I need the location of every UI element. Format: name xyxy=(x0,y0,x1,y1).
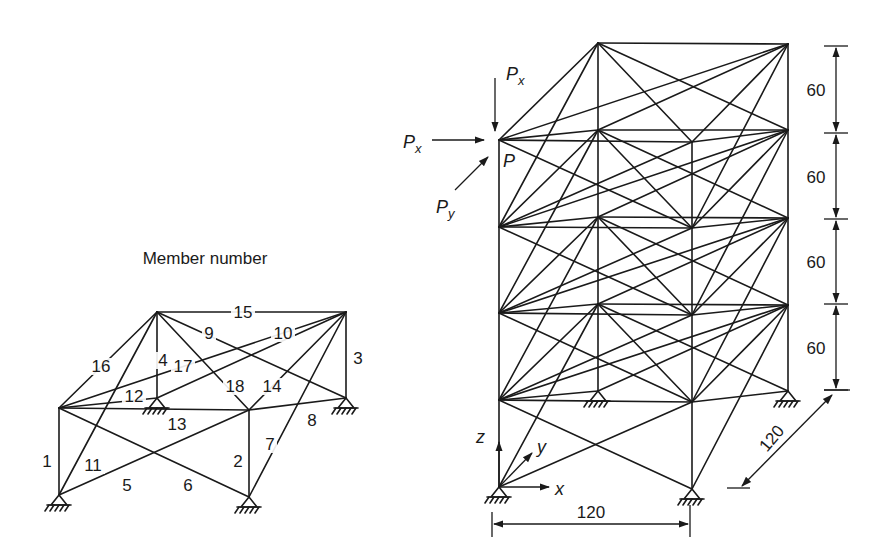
tower-member xyxy=(499,227,692,228)
member-6 xyxy=(59,408,249,497)
member-label-11: 11 xyxy=(84,456,102,475)
load-arrows xyxy=(432,78,495,190)
tower-member xyxy=(499,313,692,402)
member-label-6: 6 xyxy=(183,476,192,495)
tower-member xyxy=(692,130,788,228)
coordinate-axes: z y x xyxy=(475,427,565,499)
member-diagram-title: Member number xyxy=(143,249,268,268)
member-label-18: 18 xyxy=(226,377,245,396)
py-label: Py xyxy=(436,197,456,221)
tower-member xyxy=(499,140,692,142)
tower-members xyxy=(499,43,788,489)
member-number-labels: 123456789101112131415161718 xyxy=(40,303,365,495)
height-label-4: 60 xyxy=(807,339,826,358)
px-horizontal-label: Px xyxy=(403,132,422,156)
tower-member xyxy=(499,313,692,315)
member-8 xyxy=(249,398,346,410)
member-label-5: 5 xyxy=(122,476,131,495)
tower-member xyxy=(692,391,788,402)
member-label-9: 9 xyxy=(204,324,213,343)
z-axis-label: z xyxy=(475,427,485,447)
pinned-support-icon xyxy=(143,398,169,414)
load-labels: Px Px Py P xyxy=(403,64,525,221)
height-label-1: 60 xyxy=(807,81,826,100)
member-label-2: 2 xyxy=(233,452,242,471)
member-label-3: 3 xyxy=(353,349,362,368)
member-label-1: 1 xyxy=(42,452,51,471)
tower-member xyxy=(598,43,788,44)
pinned-support-icon xyxy=(485,487,511,503)
truss-figure: Member number 12345678910111213141516171… xyxy=(0,0,888,555)
pinned-support-icon xyxy=(678,489,704,505)
space-tower-diagram: Px Px Py P z y x 120 120 xyxy=(403,43,850,537)
pinned-support-icon xyxy=(45,495,71,511)
member-label-15: 15 xyxy=(234,303,253,322)
tower-member xyxy=(499,43,598,140)
tower-member xyxy=(598,43,692,142)
width-dimension: 120 xyxy=(492,503,690,537)
tower-member xyxy=(598,217,692,315)
pinned-support-icon xyxy=(774,391,800,407)
member-label-14: 14 xyxy=(263,377,282,396)
depth-dimension-label: 120 xyxy=(755,421,788,455)
member-label-4: 4 xyxy=(158,351,167,370)
depth-dimension: 120 xyxy=(727,390,850,488)
height-dimensions: 60 60 60 60 xyxy=(807,46,848,390)
pinned-support-icon xyxy=(584,391,610,407)
tower-supports xyxy=(485,391,800,505)
member-label-8: 8 xyxy=(307,411,316,430)
pinned-support-icon xyxy=(332,398,358,414)
tower-member xyxy=(598,304,788,305)
height-label-2: 60 xyxy=(807,168,826,187)
py-arrow xyxy=(455,157,488,190)
tower-member xyxy=(499,400,692,489)
pinned-support-icon xyxy=(235,497,261,513)
tower-member xyxy=(598,304,692,402)
member-label-17: 17 xyxy=(174,357,193,376)
x-axis-label: x xyxy=(554,479,565,499)
member-label-12: 12 xyxy=(125,387,144,406)
y-axis-label: y xyxy=(535,437,547,457)
node-p-label: P xyxy=(503,151,515,171)
px-vertical-label: Px xyxy=(506,64,525,88)
member-label-10: 10 xyxy=(274,324,293,343)
tower-member xyxy=(598,217,788,218)
member-label-16: 16 xyxy=(92,357,111,376)
member-label-13: 13 xyxy=(168,415,187,434)
tower-member xyxy=(598,130,692,228)
member-number-diagram: Member number 12345678910111213141516171… xyxy=(40,249,365,513)
member-label-7: 7 xyxy=(265,435,274,454)
width-dimension-label: 120 xyxy=(577,503,605,522)
height-label-3: 60 xyxy=(807,253,826,272)
